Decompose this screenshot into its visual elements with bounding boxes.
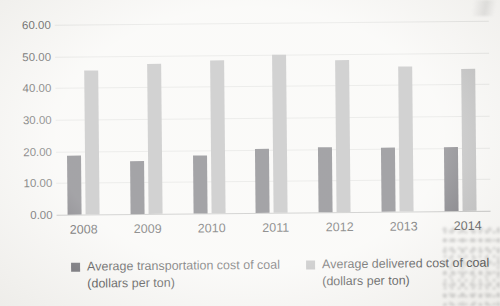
y-tick-label: 20.00 (8, 145, 52, 159)
y-tick-label: 30.00 (8, 113, 52, 127)
y-tick-label: 40.00 (7, 81, 51, 95)
chart-legend: Average transportation cost of coal(doll… (71, 255, 489, 292)
bar-delivered-2011 (273, 55, 289, 213)
x-axis: 2008200920102011201220132014 (57, 219, 498, 237)
x-tick-label-2008: 2008 (59, 222, 109, 236)
x-tick-label-2011: 2011 (251, 221, 301, 235)
bar-transportation-2013 (381, 148, 396, 212)
bar-transportation-2010 (193, 156, 208, 214)
bar-delivered-2012 (335, 60, 350, 212)
bar-delivered-2013 (398, 66, 413, 211)
bar-chart: 0.0010.0020.0030.0040.0050.0060.00 20082… (0, 0, 500, 306)
bar-group-2010 (192, 61, 225, 214)
y-tick-label: 0.00 (9, 208, 53, 222)
x-tick-label-2013: 2013 (379, 219, 429, 233)
legend-item-transportation: Average transportation cost of coal(doll… (71, 257, 280, 292)
bar-group-2014 (443, 69, 476, 211)
bar-transportation-2014 (444, 147, 459, 211)
bar-group-2011 (255, 55, 289, 213)
y-axis: 0.0010.0020.0030.0040.0050.0060.00 (7, 25, 53, 215)
bar-delivered-2009 (147, 63, 162, 214)
legend-label: Average transportation cost of coal(doll… (87, 257, 280, 292)
bar-group-2012 (317, 60, 350, 212)
legend-swatch-icon (71, 263, 80, 272)
scan-noise-top-right (430, 0, 500, 16)
bar-transportation-2009 (130, 161, 145, 214)
x-tick-label-2012: 2012 (315, 220, 365, 234)
scanned-chart-page: 0.0010.0020.0030.0040.0050.0060.00 20082… (0, 0, 500, 306)
bar-transportation-2008 (67, 155, 82, 214)
scan-noise-bottom-right (442, 226, 500, 306)
y-tick-label: 10.00 (8, 176, 52, 190)
bar-transportation-2012 (318, 148, 333, 213)
x-tick-label-2009: 2009 (123, 222, 173, 236)
bar-group-2009 (129, 63, 162, 214)
bar-delivered-2010 (210, 61, 225, 214)
x-tick-label-2010: 2010 (187, 221, 237, 235)
bar-delivered-2014 (461, 69, 476, 211)
y-tick-label: 60.00 (7, 18, 51, 32)
bar-delivered-2008 (84, 70, 99, 214)
bar-transportation-2011 (255, 149, 270, 213)
legend-swatch-icon (306, 260, 315, 269)
y-tick-label: 50.00 (7, 50, 51, 64)
bar-series-container (55, 21, 491, 215)
plot-area (55, 21, 491, 216)
bar-group-2008 (66, 70, 99, 214)
bar-group-2013 (380, 66, 413, 211)
